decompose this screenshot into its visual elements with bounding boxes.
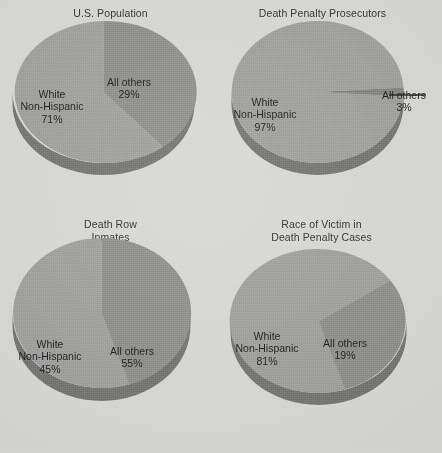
slice-label-all-others: All others 19% [309, 337, 381, 362]
slice-label-all-others: All others 29% [93, 76, 165, 101]
chart-panel-us-population: U.S. Population White Non-Hispanic 71% A… [0, 0, 221, 213]
slice-label-all-others: All others 3% [369, 89, 439, 114]
pie-svg [9, 251, 195, 423]
slice-label-white-non-hispanic: White Non-Hispanic 81% [219, 330, 315, 367]
pie-chart [9, 251, 195, 423]
slice-label-white-non-hispanic: White Non-Hispanic 71% [4, 88, 100, 125]
slice-label-white-non-hispanic: White Non-Hispanic 45% [2, 338, 98, 375]
chart-panel-death-penalty-prosecutors: Death Penalty Prosecutors White Non-Hisp… [221, 0, 442, 213]
slice-label-all-others: All others 55% [96, 345, 168, 370]
chart-title: Death Penalty Prosecutors [219, 7, 426, 20]
chart-panel-death-row-inmates: Death Row Inmates White Non-Hispanic 45%… [0, 213, 221, 453]
chart-panel-race-of-victim: Race of Victim in Death Penalty Cases Wh… [221, 213, 442, 453]
chart-title: U.S. Population [0, 7, 221, 20]
slice-label-white-non-hispanic: White Non-Hispanic 97% [217, 96, 313, 133]
pie-chart-grid: U.S. Population White Non-Hispanic 71% A… [0, 0, 442, 453]
pie-slices-top [230, 249, 406, 393]
chart-title: Race of Victim in Death Penalty Cases [221, 218, 422, 243]
